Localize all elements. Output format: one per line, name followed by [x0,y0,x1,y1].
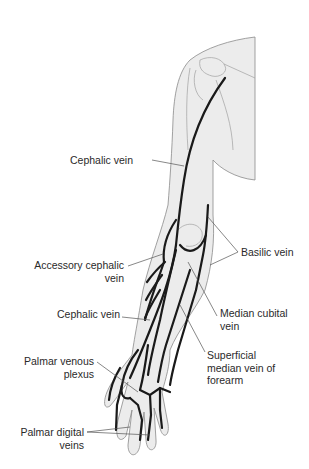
label-cephalic-vein-upper: Cephalic vein [70,154,133,167]
label-line: Median cubital [220,307,288,320]
arm-veins-illustration [0,0,309,469]
label-line: Superficial [207,349,275,362]
label-line: Palmar venous [18,355,94,368]
label-line: Basilic vein [241,246,294,259]
label-palmar-digital-veins: Palmar digital veins [14,426,84,451]
label-cephalic-vein-lower: Cephalic vein [44,308,120,321]
label-superficial-median-vein: Superficial median vein of forearm [207,349,275,387]
label-palmar-venous-plexus: Palmar venous plexus [18,355,94,380]
label-line: Cephalic vein [70,154,133,167]
label-accessory-cephalic-vein: Accessory cephalic vein [32,259,124,284]
label-line: Palmar digital [14,426,84,439]
label-median-cubital-vein: Median cubital vein [220,307,288,332]
label-line: plexus [18,368,94,381]
label-line: vein [220,320,288,333]
label-line: forearm [207,374,275,387]
label-line: Cephalic vein [44,308,120,321]
label-line: vein [32,272,124,285]
label-basilic-vein: Basilic vein [241,246,294,259]
label-line: Accessory cephalic [32,259,124,272]
label-line: median vein of [207,362,275,375]
label-line: veins [14,439,84,452]
